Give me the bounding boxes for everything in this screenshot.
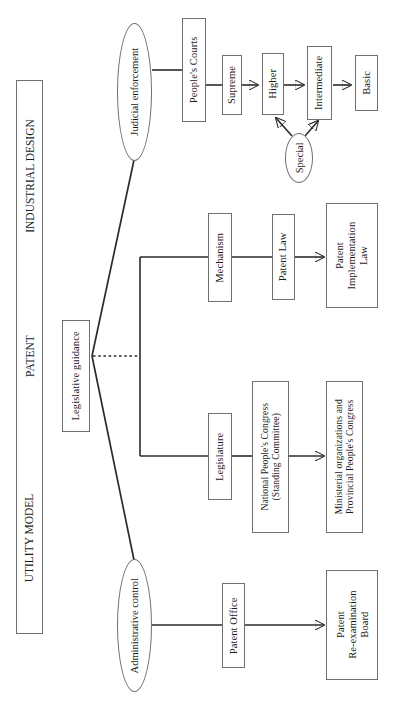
node-judicial-enforcement[interactable]: Judicial enforcement — [117, 23, 152, 161]
node-judicial-enforcement-label: Judicial enforcement — [129, 48, 141, 136]
node-peoples-courts[interactable]: People's Courts — [182, 18, 206, 122]
node-basic-label: Basic — [361, 71, 373, 95]
node-patent-reexamination-board-label: Patent Re-examination Board — [334, 591, 369, 659]
node-administrative-control[interactable]: Administrative control — [117, 559, 152, 692]
node-mechanism-label: Mechanism — [214, 233, 226, 283]
node-intermediate[interactable]: Intermediate — [307, 46, 332, 120]
node-ministerial-organizations[interactable]: Ministerial organizations and Provincial… — [326, 381, 363, 533]
node-patent-reexamination-board[interactable]: Patent Re-examination Board — [326, 570, 378, 680]
node-patent-law-label: Patent Law — [278, 233, 290, 282]
node-patent-law[interactable]: Patent Law — [272, 214, 295, 300]
node-supreme[interactable]: Supreme — [222, 55, 242, 115]
category-industrial-design: INDUSTRIAL DESIGN — [17, 91, 42, 261]
category-patent: PATENT — [17, 281, 42, 431]
node-legislature[interactable]: Legislature — [208, 413, 232, 500]
node-higher[interactable]: Higher — [262, 53, 284, 115]
category-utility-model: UTILITY MODEL — [17, 453, 42, 623]
node-national-peoples-congress[interactable]: National People's Congress (Standing Com… — [252, 381, 289, 533]
node-legislative-guidance-label: Legislative guidance — [70, 331, 82, 420]
node-mechanism[interactable]: Mechanism — [208, 213, 232, 302]
node-legislative-guidance[interactable]: Legislative guidance — [62, 320, 90, 432]
node-patent-implementation-law[interactable]: Patent Implementation Law — [326, 203, 378, 308]
node-ministerial-organizations-label: Ministerial organizations and Provincial… — [334, 399, 355, 514]
node-patent-office-label: Patent Office — [228, 597, 240, 654]
node-legislature-label: Legislature — [214, 432, 226, 480]
category-bar: INDUSTRIAL DESIGN PATENT UTILITY MODEL — [16, 80, 43, 634]
diagram-canvas: INDUSTRIAL DESIGN PATENT UTILITY MODEL L… — [0, 0, 396, 702]
node-special-court-label: Special — [293, 143, 305, 174]
node-national-peoples-congress-label: National People's Congress (Standing Com… — [260, 403, 281, 511]
node-intermediate-label: Intermediate — [314, 56, 326, 110]
node-peoples-courts-label: People's Courts — [188, 37, 200, 104]
node-basic[interactable]: Basic — [355, 55, 378, 111]
node-special-court[interactable]: Special — [285, 133, 313, 183]
node-higher-label: Higher — [267, 69, 279, 99]
node-supreme-label: Supreme — [226, 66, 238, 104]
node-patent-office[interactable]: Patent Office — [222, 583, 245, 668]
node-administrative-control-label: Administrative control — [129, 578, 141, 673]
node-patent-implementation-law-label: Patent Implementation Law — [334, 222, 369, 290]
